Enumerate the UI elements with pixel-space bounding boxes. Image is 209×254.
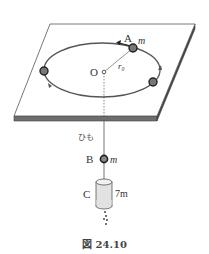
label-O: O — [90, 67, 98, 78]
bob-A — [129, 44, 137, 52]
label-mass-A: m — [138, 36, 145, 46]
bob-B — [100, 155, 107, 162]
motion-dot — [103, 218, 105, 220]
label-mass-B: m — [110, 155, 117, 165]
figure-caption: 図 24.10 — [0, 236, 209, 251]
plate-side — [14, 116, 157, 121]
label-B: B — [86, 154, 93, 165]
label-radius: r₀ — [118, 62, 125, 71]
motion-dot — [105, 215, 107, 217]
label-C: C — [83, 189, 90, 200]
hole-O — [102, 70, 106, 74]
motion-dot — [104, 211, 106, 213]
motion-dot — [106, 219, 108, 221]
bob-left — [40, 67, 48, 75]
cylinder-top — [96, 179, 112, 185]
label-A: A — [124, 33, 132, 44]
motion-dot — [105, 223, 107, 225]
label-string: ひも — [78, 134, 94, 142]
diagram-canvas — [0, 0, 209, 254]
label-mass-C: 7m — [115, 189, 128, 199]
bob-right — [149, 78, 157, 86]
